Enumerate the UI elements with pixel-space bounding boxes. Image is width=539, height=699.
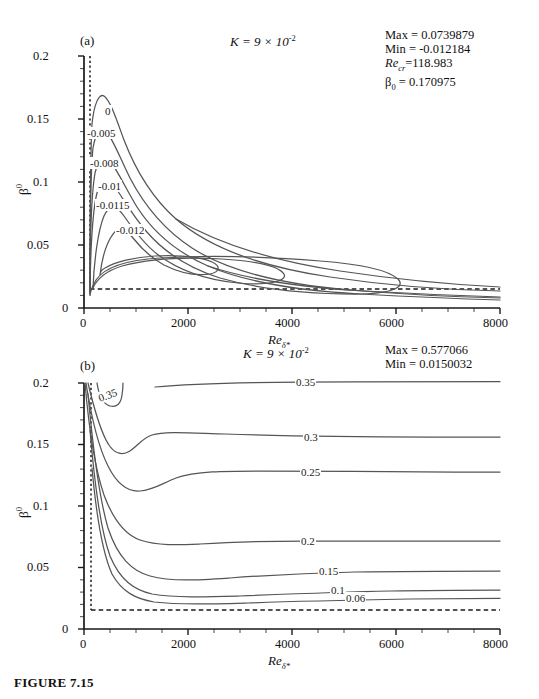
figure-caption: FIGURE 7.15 bbox=[14, 675, 94, 691]
panel-b-ytick-2: 0.1 bbox=[33, 499, 49, 514]
panel-b-k-exponent: -2 bbox=[302, 345, 309, 355]
panel-a-contour-0005 bbox=[90, 129, 500, 298]
panel-b-contours bbox=[85, 382, 500, 604]
panel-a-ytick-3: 0.05 bbox=[27, 238, 49, 253]
panel-b-label: (b) bbox=[80, 358, 95, 374]
panel-b-stats: Max = 0.577066 Min = 0.0150032 bbox=[385, 343, 472, 371]
panel-b-y-axis-sup: 0 bbox=[14, 507, 24, 511]
panel-a-contour-label-1: -0.005 bbox=[86, 127, 116, 139]
panel-b-x-axis-title: Reδ* bbox=[268, 653, 290, 671]
panel-b-ytick-4: 0 bbox=[62, 622, 68, 637]
panel-a-contour-0008-tail bbox=[208, 266, 500, 297]
panel-a-ytick-1: 0.15 bbox=[27, 112, 49, 127]
panel-a-xtick-3: 6000 bbox=[379, 316, 404, 331]
panel-a-ytick-2: 0.1 bbox=[33, 175, 49, 190]
panel-a-stats: Max = 0.0739879 Min = -0.012184 Recr=118… bbox=[385, 28, 474, 94]
panel-a-k-label: K = 9 × 10-2 bbox=[230, 33, 296, 50]
panel-b-contour-label-4: 0.2 bbox=[300, 535, 316, 547]
panel-b-contour-02 bbox=[85, 383, 500, 545]
panel-a-contour-label-3: -0.01 bbox=[97, 180, 122, 192]
panel-b-contour-label-1: 0.35 bbox=[295, 376, 316, 388]
panel-b-k-text: K = 9 × 10 bbox=[243, 346, 302, 361]
panel-a-contour-00115 bbox=[93, 207, 285, 288]
panel-a-y-axis-title: β0 bbox=[14, 184, 32, 195]
panel-b-x-axis-re: Re bbox=[268, 653, 282, 668]
panel-b-plot bbox=[78, 382, 500, 635]
panel-a-xtick-1: 2000 bbox=[171, 316, 196, 331]
panel-b-contour-label-6: 0.1 bbox=[330, 584, 346, 596]
panel-a-plot bbox=[78, 56, 500, 314]
panel-a-stat-re-val: =118.983 bbox=[405, 56, 452, 70]
panel-b-y-axis-title: β0 bbox=[14, 507, 32, 518]
panel-b-ytick-3: 0.05 bbox=[27, 560, 49, 575]
panel-b-y-axis-beta: β bbox=[16, 511, 31, 518]
panel-b-contour-03 bbox=[88, 383, 500, 454]
panel-b-xtick-3: 6000 bbox=[379, 637, 404, 652]
panel-a-xtick-0: 0 bbox=[80, 316, 86, 331]
panel-b-contour-label-2: 0.3 bbox=[303, 431, 319, 443]
panel-a-k-text: K = 9 × 10 bbox=[230, 34, 289, 49]
panel-a-contour-label-2: -0.008 bbox=[89, 157, 119, 169]
panel-a-contour-0-tail bbox=[176, 219, 500, 287]
panel-b-xtick-2: 4000 bbox=[275, 637, 300, 652]
panel-a-stat-re: Re bbox=[385, 56, 398, 70]
panel-b-stat-min: Min = 0.0150032 bbox=[385, 357, 472, 371]
panel-b-x-axis-sub: δ* bbox=[282, 661, 290, 671]
panel-b-x-ticks bbox=[84, 629, 500, 635]
panel-a-stat-recr: Recr=118.983 bbox=[385, 56, 474, 75]
panel-a-contour-0 bbox=[90, 96, 500, 291]
panel-a-label: (a) bbox=[80, 33, 94, 49]
panel-a-contours bbox=[90, 96, 500, 300]
panel-a-xtick-4: 8000 bbox=[483, 316, 508, 331]
panel-a-ytick-4: 0 bbox=[62, 301, 68, 316]
panel-a-y-axis-sup: 0 bbox=[14, 184, 24, 188]
panel-a-x-ticks bbox=[84, 308, 500, 314]
panel-a-stat-beta-val: = 0.170975 bbox=[399, 75, 456, 89]
panel-a-stat-min: Min = -0.012184 bbox=[385, 42, 474, 56]
panel-a-contour-0008 bbox=[90, 158, 500, 300]
panel-b-xtick-1: 2000 bbox=[171, 637, 196, 652]
panel-b-xtick-4: 8000 bbox=[483, 637, 508, 652]
panel-b-contour-label-5: 0.15 bbox=[318, 565, 339, 577]
panel-a-k-exponent: -2 bbox=[289, 33, 296, 43]
panel-a-stat-beta0: β0 = 0.170975 bbox=[385, 75, 474, 94]
panel-b-stat-max: Max = 0.577066 bbox=[385, 343, 472, 357]
panel-b-contour-015 bbox=[88, 394, 500, 580]
panel-b-ytick-0: 0.2 bbox=[33, 376, 49, 391]
panel-b-contour-label-3: 0.25 bbox=[300, 466, 321, 478]
panel-a-contour-label-5: -0.012 bbox=[115, 224, 145, 236]
panel-b-ytick-1: 0.15 bbox=[27, 437, 49, 452]
panel-a-xtick-2: 4000 bbox=[275, 316, 300, 331]
panel-b-contour-035 bbox=[155, 382, 500, 387]
panel-b-k-label: K = 9 × 10-2 bbox=[243, 345, 309, 362]
panel-a-contour-label-0: 0 bbox=[104, 105, 112, 117]
panel-b-contour-label-7: 0.06 bbox=[345, 592, 366, 604]
panel-a-stat-beta-sub: 0 bbox=[391, 82, 395, 92]
panel-a-y-axis-beta: β bbox=[16, 188, 31, 195]
panel-a-ytick-0: 0.2 bbox=[33, 49, 49, 64]
panel-b-contour-01 bbox=[90, 430, 500, 597]
panel-a-contour-label-4: -0.0115 bbox=[95, 199, 131, 211]
panel-b-xtick-0: 0 bbox=[80, 637, 86, 652]
panel-a-stat-max: Max = 0.0739879 bbox=[385, 28, 474, 42]
